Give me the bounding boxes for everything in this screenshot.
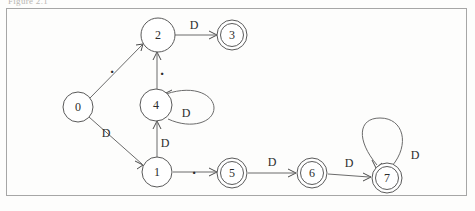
state-node-4[interactable]: 4 [140, 89, 172, 121]
state-node-3[interactable]: 3 [217, 20, 247, 50]
edge-label-4-2: . [160, 62, 164, 78]
edge-line-0-2 [90, 45, 142, 98]
state-circle-1[interactable] [142, 157, 172, 187]
loop-path-7 [362, 118, 402, 166]
state-circle-0[interactable] [63, 92, 93, 122]
transition-1-to-4: D [153, 121, 170, 157]
state-node-0[interactable]: 0 [63, 92, 93, 122]
self-loop-7: D [362, 118, 419, 168]
transition-6-to-7: D [328, 156, 371, 181]
scanned-page: Figure 2.1 . D D . [0, 0, 475, 211]
transition-0-to-1: D [89, 117, 143, 169]
edge-label-loop-4: D [182, 106, 191, 120]
edge-label-6-7: D [345, 156, 354, 170]
edge-label-0-1: D [102, 126, 111, 140]
state-node-7[interactable]: 7 [372, 163, 402, 193]
edge-label-2-3: D [190, 18, 199, 32]
state-diagram: . D D . D D [0, 0, 475, 211]
state-circle-5[interactable] [217, 158, 247, 188]
edge-line-6-7 [328, 174, 369, 177]
transition-1-to-5: . [173, 161, 217, 177]
state-circle-7[interactable] [372, 163, 402, 193]
state-circle-3[interactable] [217, 20, 247, 50]
edge-label-5-6: D [268, 155, 277, 169]
transition-2-to-3: D [175, 18, 217, 39]
edge-line-0-1 [89, 117, 142, 164]
transition-0-to-2: . [90, 44, 143, 98]
state-node-1[interactable]: 1 [142, 157, 172, 187]
transition-4-to-2: . [153, 52, 164, 89]
state-node-5[interactable]: 5 [217, 158, 247, 188]
state-node-6[interactable]: 6 [297, 158, 327, 188]
state-circle-4[interactable] [140, 89, 172, 121]
transition-5-to-6: D [248, 155, 296, 177]
state-circle-2[interactable] [141, 18, 175, 52]
state-node-2[interactable]: 2 [141, 18, 175, 52]
edge-label-1-5: . [192, 161, 196, 177]
edge-label-loop-7: D [411, 148, 420, 162]
edge-label-1-4: D [161, 136, 170, 150]
arrowhead-0-1 [135, 161, 143, 169]
loop-path-4 [166, 90, 214, 124]
state-circle-6[interactable] [297, 158, 327, 188]
